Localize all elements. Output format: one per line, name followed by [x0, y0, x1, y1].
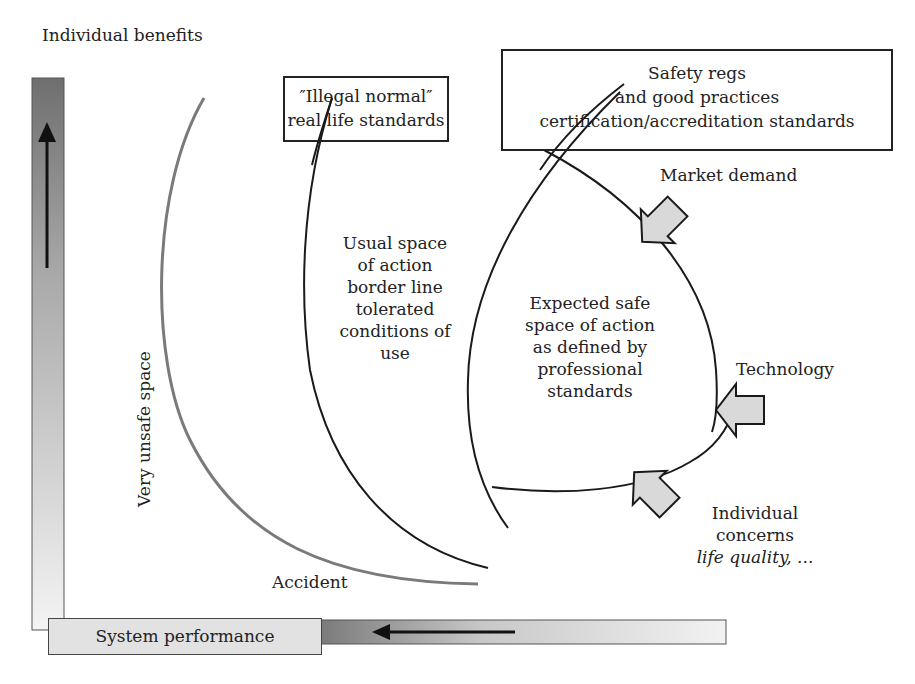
y-axis-bar	[32, 78, 64, 630]
market-demand-label: Market demand	[660, 164, 797, 186]
expected-safe-bottom-curve	[492, 408, 734, 491]
illegal-normal-box: ″Illegal normal″ real life standards	[283, 76, 449, 142]
expected-safe-label: Expected safe space of action as defined…	[520, 292, 660, 402]
usual-space-label: Usual space of action border line tolera…	[320, 232, 470, 364]
x-axis-bar	[320, 620, 726, 644]
individual-concerns-arrow-icon	[617, 455, 686, 524]
technology-arrow-icon	[716, 384, 764, 436]
x-axis-label: System performance	[48, 618, 322, 655]
illegal-normal-line1: ″Illegal normal″	[285, 84, 447, 108]
safety-regs-line2: and good practices	[503, 85, 891, 109]
safety-regs-box: Safety regs and good practices certifica…	[501, 49, 893, 151]
illegal-normal-line2: real life standards	[285, 108, 447, 132]
safety-regs-line1: Safety regs	[503, 61, 891, 85]
accident-label: Accident	[272, 571, 347, 593]
safety-regs-line3: certification/accreditation standards	[503, 109, 891, 133]
individual-concerns-label: Individual concerns life quality, ...	[685, 502, 825, 568]
market-demand-arrow-icon	[625, 189, 694, 258]
very-unsafe-space-label: Very unsafe space	[133, 349, 155, 509]
technology-label: Technology	[736, 358, 834, 380]
